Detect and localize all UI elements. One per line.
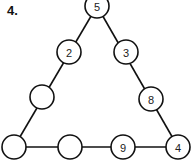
node-circle <box>30 85 54 109</box>
node-bottom-3: 9 <box>111 135 135 159</box>
node-value: 9 <box>120 142 126 154</box>
triangle-puzzle: 4. 523894 <box>0 0 194 161</box>
node-right-1: 3 <box>114 40 138 64</box>
node-circle <box>2 135 26 159</box>
node-bottom-right: 4 <box>166 135 190 159</box>
node-bottom-2 <box>58 135 82 159</box>
node-value: 5 <box>94 1 100 13</box>
edges <box>14 6 178 147</box>
right-edge <box>97 6 178 147</box>
node-left-1: 2 <box>57 40 81 64</box>
node-top: 5 <box>85 0 109 18</box>
node-value: 8 <box>148 94 154 106</box>
left-edge <box>14 6 97 147</box>
node-value: 2 <box>66 47 72 59</box>
node-circle <box>58 135 82 159</box>
node-left-2 <box>30 85 54 109</box>
node-value: 3 <box>123 47 129 59</box>
node-value: 4 <box>175 142 181 154</box>
triangle-diagram: 523894 <box>0 0 194 161</box>
node-right-2: 8 <box>139 87 163 111</box>
node-bottom-left <box>2 135 26 159</box>
nodes: 523894 <box>2 0 190 159</box>
